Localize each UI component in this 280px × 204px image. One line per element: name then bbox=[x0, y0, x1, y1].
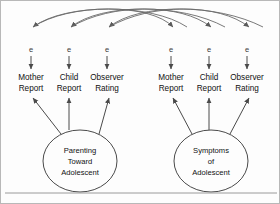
sem-path-diagram-figure: e e e e e e Mother Report Child Report O… bbox=[0, 0, 280, 204]
latent-parenting-line2: Toward bbox=[68, 157, 92, 166]
indicator-i1-line1: Mother bbox=[18, 73, 44, 82]
loading-path-parenting-i1 bbox=[33, 98, 61, 134]
loading-path-parenting-i3 bbox=[99, 98, 109, 134]
indicator-i4-line1: Mother bbox=[158, 73, 184, 82]
diagram-canvas: e e e e e e Mother Report Child Report O… bbox=[1, 1, 280, 204]
indicator-label-group: Mother Report Child Report Observer Rati… bbox=[18, 73, 264, 93]
loading-path-symptoms-i6 bbox=[230, 98, 249, 134]
error-term-e2: e bbox=[67, 45, 71, 54]
latent-factor-parenting: Parenting Toward Adolescent bbox=[43, 130, 117, 192]
error-term-e6: e bbox=[245, 45, 249, 54]
latent-parenting-line1: Parenting bbox=[64, 146, 97, 155]
error-term-group: e e e e e e bbox=[29, 45, 249, 54]
latent-symptoms-line1: Symptoms bbox=[193, 146, 229, 155]
indicator-i4-line2: Report bbox=[159, 84, 184, 93]
loading-path-symptoms-i4 bbox=[173, 98, 192, 134]
indicator-i5-line2: Report bbox=[197, 84, 222, 93]
indicator-i6-line2: Rating bbox=[235, 84, 259, 93]
indicator-i3-line1: Observer bbox=[90, 73, 124, 82]
correlated-error-curve-3 bbox=[109, 9, 263, 27]
indicator-i3-line2: Rating bbox=[95, 84, 119, 93]
indicator-i2-line2: Report bbox=[57, 84, 82, 93]
indicator-i5-line1: Child bbox=[200, 73, 219, 82]
latent-symptoms-line2: of bbox=[208, 157, 215, 166]
error-term-e5: e bbox=[207, 45, 211, 54]
indicator-i1-line2: Report bbox=[19, 84, 44, 93]
latent-parenting-line3: Adolescent bbox=[61, 168, 99, 177]
indicator-i6-line1: Observer bbox=[230, 73, 264, 82]
error-to-indicator-arrow-group bbox=[31, 56, 247, 69]
loading-path-group bbox=[33, 98, 249, 134]
latent-symptoms-line3: Adolescent bbox=[192, 168, 230, 177]
latent-factor-symptoms: Symptoms of Adolescent bbox=[174, 130, 248, 192]
error-term-e3: e bbox=[105, 45, 109, 54]
error-term-e4: e bbox=[169, 45, 173, 54]
indicator-i2-line1: Child bbox=[60, 73, 79, 82]
error-term-e1: e bbox=[29, 45, 33, 54]
correlated-error-curve-group bbox=[33, 9, 263, 27]
